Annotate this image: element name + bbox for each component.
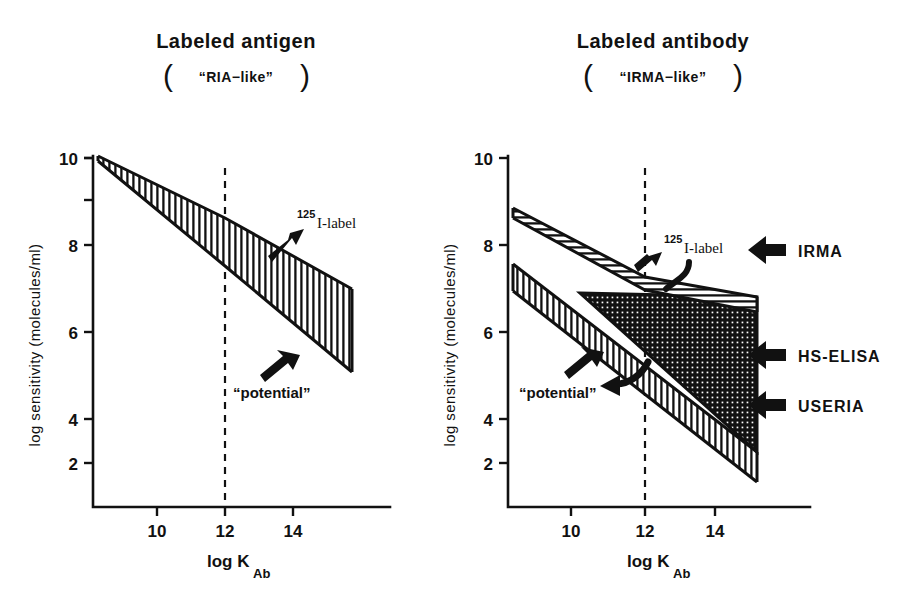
left-y-tick-2: 2	[69, 455, 78, 474]
useria-label: USERIA	[798, 398, 864, 415]
right-x-tick-14: 14	[706, 522, 725, 541]
left-y-tick-4: 4	[69, 411, 79, 430]
left-subtitle-open-paren: (	[163, 59, 173, 92]
right-subtitle-close-paren: )	[733, 59, 743, 92]
left-panel-title: Labeled antigen	[156, 30, 316, 52]
right-y-tick-4: 4	[484, 411, 494, 430]
immunoassay-sensitivity-figure: Labeled antigen ( “RIA−like” ) log sensi…	[0, 0, 920, 601]
left-y-axis-title: log sensitivity (molecules/ml)	[26, 244, 43, 447]
irma-label: IRMA	[798, 243, 843, 260]
right-y-tick-8: 8	[484, 237, 493, 256]
right-potential-text: “potential”	[519, 384, 597, 401]
left-x-axis-title: log K	[207, 552, 250, 571]
figure-root: Labeled antigen ( “RIA−like” ) log sensi…	[0, 0, 920, 601]
right-y-axis-title: log sensitivity (molecules/ml)	[441, 244, 458, 447]
figure-background	[0, 0, 920, 601]
right-panel-title: Labeled antibody	[577, 30, 750, 52]
left-x-tick-12: 12	[216, 522, 235, 541]
left-y-tick-6: 6	[69, 324, 78, 343]
right-subtitle-open-paren: (	[583, 59, 593, 92]
right-x-tick-10: 10	[562, 522, 581, 541]
right-iodine-superscript: 125	[664, 233, 682, 245]
right-panel-subtitle: “IRMA−like”	[620, 69, 707, 85]
right-iodine-label-text: I-label	[684, 240, 723, 256]
left-panel-subtitle: “RIA−like”	[199, 69, 274, 85]
right-y-tick-2: 2	[484, 455, 493, 474]
left-x-axis-title-subscript: Ab	[253, 566, 270, 581]
left-subtitle-close-paren: )	[300, 59, 310, 92]
hs-elisa-label: HS-ELISA	[798, 348, 881, 365]
right-y-tick-6: 6	[484, 324, 493, 343]
right-y-tick-10: 10	[474, 150, 493, 169]
left-iodine-label-text: I-label	[317, 215, 356, 231]
right-x-axis-title: log K	[627, 552, 670, 571]
right-x-tick-12: 12	[636, 522, 655, 541]
left-y-tick-8: 8	[69, 237, 78, 256]
right-x-axis-title-subscript: Ab	[673, 566, 690, 581]
left-iodine-superscript: 125	[297, 208, 315, 220]
left-y-tick-10: 10	[59, 150, 78, 169]
left-x-tick-14: 14	[284, 522, 303, 541]
left-x-tick-10: 10	[148, 522, 167, 541]
left-potential-text: “potential”	[233, 384, 311, 401]
